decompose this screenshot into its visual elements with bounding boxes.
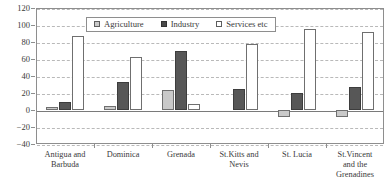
y-axis-tick-mark xyxy=(31,127,35,128)
x-axis-tick-mark xyxy=(94,144,95,148)
bar-services xyxy=(188,104,201,110)
y-axis-tick-mark xyxy=(31,25,35,26)
y-axis-tick-mark xyxy=(31,42,35,43)
bar-services xyxy=(362,32,375,110)
category-tick-marks xyxy=(36,144,384,149)
bar-agriculture xyxy=(46,107,59,110)
y-axis-tick-mark xyxy=(31,76,35,77)
y-axis-tick-label: −20 xyxy=(17,123,30,132)
x-axis-category-label: Antigua andBarbuda xyxy=(36,150,94,170)
y-axis-tick-mark xyxy=(31,8,35,9)
y-axis-tick-label: 100 xyxy=(17,21,30,30)
bar-industry xyxy=(175,51,188,111)
x-axis-category-label: Dominica xyxy=(94,150,152,160)
legend-item[interactable]: Agriculture xyxy=(94,20,144,29)
x-axis-category-label: Grenada xyxy=(152,150,210,160)
legend-item[interactable]: Industry xyxy=(161,20,200,29)
y-axis-tick-mark xyxy=(31,59,35,60)
bar-chart: 120100806040200−20−40 Antigua andBarbuda… xyxy=(0,0,392,193)
x-axis: Antigua andBarbudaDominicaGrenadaSt.Kitt… xyxy=(36,150,384,193)
legend-swatch-agriculture-icon xyxy=(94,21,100,27)
y-axis-tick-label: 120 xyxy=(17,4,30,13)
bar-group xyxy=(326,8,384,144)
y-axis-tick-label: 0 xyxy=(26,106,30,115)
chart-legend: AgricultureIndustryServices etc xyxy=(86,17,276,32)
x-axis-tick-mark xyxy=(210,144,211,148)
x-axis-tick-mark xyxy=(152,144,153,148)
x-axis-label-line: St.Vincent xyxy=(326,150,384,160)
bar-industry xyxy=(233,89,246,110)
y-axis-tick-label: 80 xyxy=(22,38,31,47)
x-axis-category-label: St. Lucia xyxy=(268,150,326,160)
y-axis-tick-mark xyxy=(31,93,35,94)
bar-agriculture xyxy=(336,110,349,117)
legend-label: Agriculture xyxy=(104,20,144,29)
x-axis-label-line: Dominica xyxy=(94,150,152,160)
y-axis-tick-label: 40 xyxy=(22,72,31,81)
y-axis-tick-label: 60 xyxy=(22,55,31,64)
x-axis-label-line: Grenadines xyxy=(326,170,384,180)
bar-services xyxy=(72,36,85,110)
bar-services xyxy=(130,57,143,110)
bar-industry xyxy=(349,87,362,110)
x-axis-label-line: Nevis xyxy=(210,160,268,170)
x-axis-tick-mark xyxy=(268,144,269,148)
y-axis-tick-mark xyxy=(31,144,35,145)
bar-group xyxy=(268,8,326,144)
legend-swatch-services-icon xyxy=(216,21,222,27)
bar-industry xyxy=(117,82,130,110)
legend-label: Industry xyxy=(171,20,200,29)
x-axis-label-line: and the xyxy=(326,160,384,170)
bar-services xyxy=(304,29,317,110)
y-axis: 120100806040200−20−40 xyxy=(0,0,34,152)
bar-services xyxy=(246,44,259,110)
legend-item[interactable]: Services etc xyxy=(216,20,267,29)
x-axis-label-line: Grenada xyxy=(152,150,210,160)
y-axis-tick-label: −40 xyxy=(17,140,30,149)
y-axis-tick-mark xyxy=(31,110,35,111)
bar-industry xyxy=(291,93,304,110)
bar-industry xyxy=(59,102,72,111)
bar-agriculture xyxy=(104,106,117,110)
legend-label: Services etc xyxy=(226,20,267,29)
x-axis-label-line: Barbuda xyxy=(36,160,94,170)
y-axis-tick-label: 20 xyxy=(22,89,31,98)
x-axis-tick-mark xyxy=(326,144,327,148)
x-axis-label-line: St. Lucia xyxy=(268,150,326,160)
x-axis-label-line: Antigua and xyxy=(36,150,94,160)
x-axis-category-label: St.Vincentand theGrenadines xyxy=(326,150,384,180)
x-axis-category-label: St.Kitts andNevis xyxy=(210,150,268,170)
x-axis-label-line: St.Kitts and xyxy=(210,150,268,160)
bar-agriculture xyxy=(278,110,291,117)
legend-swatch-industry-icon xyxy=(161,21,167,27)
bar-agriculture xyxy=(162,90,175,110)
